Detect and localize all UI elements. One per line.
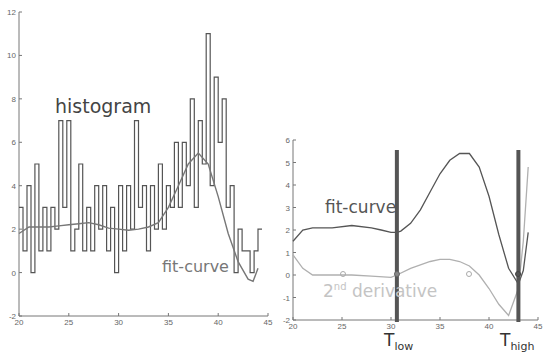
second-derivative-label: 2nd derivative [323, 281, 437, 301]
svg-text:20: 20 [289, 322, 298, 331]
svg-text:25: 25 [64, 318, 73, 327]
histogram-label: histogram [55, 95, 151, 117]
fit-curve-label-left: fit-curve [162, 257, 229, 276]
svg-text:4: 4 [12, 182, 17, 191]
svg-text:0: 0 [12, 269, 17, 278]
svg-text:3: 3 [286, 204, 291, 213]
right-y-ticks: -2-10123456 [283, 136, 296, 325]
svg-text:6: 6 [12, 138, 17, 147]
svg-text:25: 25 [338, 322, 347, 331]
svg-text:45: 45 [264, 318, 273, 327]
svg-text:35: 35 [436, 322, 445, 331]
svg-text:2: 2 [286, 226, 291, 235]
svg-text:10: 10 [7, 51, 16, 60]
svg-text:-1: -1 [283, 294, 291, 303]
figure: -2024681012 202530354045 histogram fit-c… [0, 0, 544, 357]
svg-text:12: 12 [7, 8, 16, 17]
threshold-bar-t-high [516, 150, 520, 322]
svg-text:40: 40 [214, 318, 223, 327]
t-low-label: Tlow [383, 330, 413, 353]
zero-marker [516, 272, 521, 277]
svg-text:45: 45 [534, 322, 543, 331]
zero-marker [341, 272, 346, 277]
svg-text:4: 4 [286, 181, 291, 190]
svg-text:40: 40 [485, 322, 494, 331]
svg-text:20: 20 [15, 318, 24, 327]
histogram-line [19, 34, 262, 273]
svg-text:6: 6 [286, 136, 291, 145]
left-x-ticks: 202530354045 [15, 313, 273, 327]
right-chart: -2-10123456 202530354045 fit-curve 2nd d… [283, 136, 543, 353]
svg-text:30: 30 [114, 318, 123, 327]
svg-text:1: 1 [286, 249, 291, 258]
fit-curve-line-right [293, 154, 528, 285]
left-y-ticks: -2024681012 [7, 8, 22, 321]
right-x-ticks: 202530354045 [289, 317, 543, 331]
svg-text:8: 8 [12, 95, 17, 104]
t-high-label: Thigh [499, 330, 534, 353]
zero-marker [467, 272, 472, 277]
svg-text:2: 2 [12, 225, 17, 234]
svg-text:0: 0 [286, 271, 291, 280]
left-chart: -2024681012 202530354045 histogram fit-c… [7, 8, 273, 327]
svg-text:5: 5 [286, 159, 291, 168]
zero-marker [395, 272, 400, 277]
svg-text:35: 35 [164, 318, 173, 327]
fit-curve-label-right: fit-curve [325, 197, 396, 217]
